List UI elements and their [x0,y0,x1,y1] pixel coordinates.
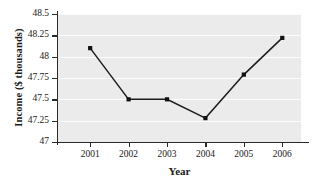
x-axis-tick-label: 2003 [147,149,187,159]
x-axis-tick-label: 2006 [262,149,302,159]
gridline [58,14,301,15]
x-axis-tick [205,142,206,147]
y-axis-tick [52,14,58,15]
y-axis-tick-label: 47 [0,137,49,147]
y-axis-tick-label: 47.5 [0,94,49,104]
x-axis-tick-label: 2005 [224,149,264,159]
x-axis-tick-label: 2004 [185,149,225,159]
y-axis-tick-label: 48.5 [0,9,49,19]
gridline [58,121,301,122]
gridline [58,35,301,36]
y-axis-tick-label: 47.25 [0,116,49,126]
x-axis-tick [282,142,283,147]
y-axis-tick [52,57,58,58]
y-axis-tick [52,78,58,79]
x-axis-tick-label: 2002 [109,149,149,159]
x-axis-title: Year [58,165,301,177]
x-axis-tick [129,142,130,147]
gridline [58,99,301,100]
x-axis-tick [167,142,168,147]
gridline [58,78,301,79]
x-axis-tick [90,142,91,147]
y-axis-tick [52,99,58,100]
y-axis-tick [52,142,58,143]
y-axis-tick [52,121,58,122]
y-axis-tick [52,35,58,36]
line-chart-figure: Income ($ thousands) 4747.2547.547.75484… [0,0,317,187]
y-axis-tick-label: 48.25 [0,30,49,40]
y-axis-tick-label: 47.75 [0,73,49,83]
gridline [58,57,301,58]
y-axis-tick-label: 48 [0,52,49,62]
x-axis-tick [244,142,245,147]
plot-panel [58,14,301,142]
x-axis-tick-label: 2001 [70,149,110,159]
